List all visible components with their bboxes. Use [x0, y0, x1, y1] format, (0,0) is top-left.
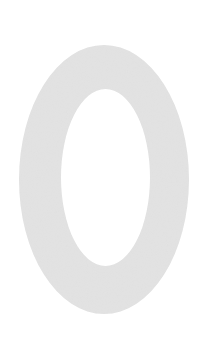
digit-zero-glyph: 0 — [0, 0, 207, 350]
zero-glyph-shape — [0, 0, 207, 350]
